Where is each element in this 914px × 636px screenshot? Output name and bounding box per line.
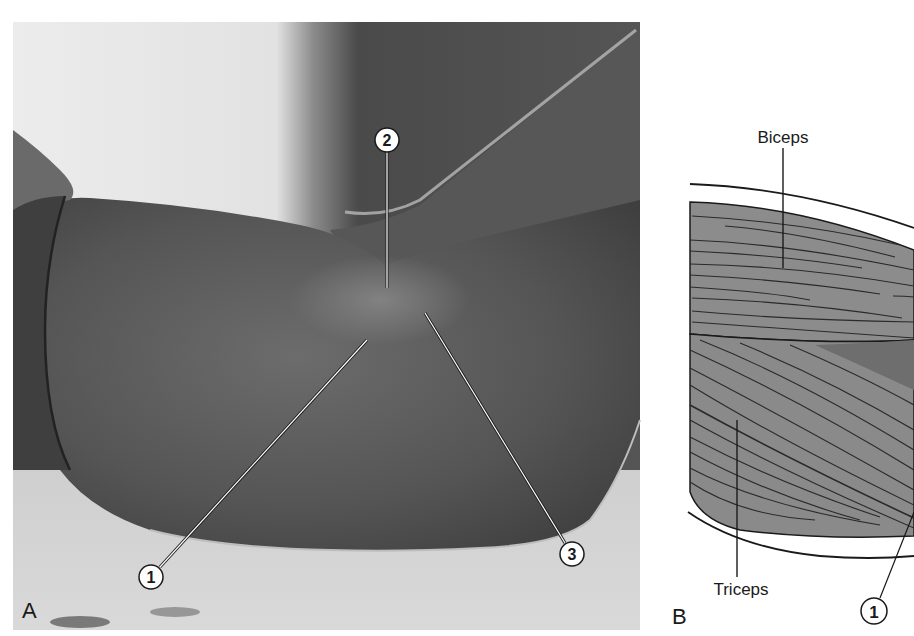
callout-b-1: 1	[861, 598, 887, 624]
muscle-diagram: Biceps Triceps 1 B	[660, 0, 914, 636]
svg-text:3: 3	[568, 546, 577, 563]
callout-2: 2	[375, 128, 399, 152]
panel-b-illustration: Biceps Triceps 1 B	[660, 0, 914, 636]
panel-letter-b: B	[672, 604, 687, 629]
svg-text:2: 2	[383, 132, 392, 149]
callout-3: 3	[560, 542, 584, 566]
label-biceps: Biceps	[757, 128, 808, 147]
callout-1: 1	[139, 565, 163, 589]
panel-letter-a: A	[22, 598, 37, 623]
upper-arm	[13, 198, 640, 551]
biceps-muscle	[690, 202, 914, 342]
svg-text:1: 1	[147, 569, 156, 586]
elbow-photo: 2 1 3 A	[0, 0, 660, 636]
label-triceps: Triceps	[713, 580, 768, 599]
panel-a-photo: 2 1 3 A	[0, 0, 660, 636]
elbow-crease	[290, 255, 470, 345]
svg-text:1: 1	[869, 603, 878, 622]
